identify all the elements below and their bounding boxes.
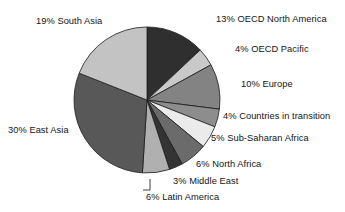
slice-label-countries-in-transition: 4% Countries in transition — [223, 111, 330, 122]
slice-label-middle-east: 3% Middle East — [173, 176, 238, 187]
slice-label-oecd-north-america: 13% OECD North America — [216, 14, 327, 25]
slice-label-south-asia-text: 19% South Asia — [36, 16, 102, 26]
slice-label-middle-east-text: 3% Middle East — [173, 176, 238, 186]
latin-america-leader-line — [143, 179, 150, 190]
slice-label-east-asia: 30% East Asia — [8, 125, 69, 136]
slice-label-east-asia-text: 30% East Asia — [8, 125, 69, 135]
slice-label-north-africa-text: 6% North Africa — [196, 159, 261, 169]
slice-label-latin-america: 6% Latin America — [146, 192, 219, 203]
slice-label-oecd-pacific: 4% OECD Pacific — [235, 44, 309, 55]
slice-label-latin-america-text: 6% Latin America — [146, 192, 219, 202]
slice-label-south-asia: 19% South Asia — [36, 16, 102, 27]
slice-label-north-africa: 6% North Africa — [196, 159, 261, 170]
slice-label-sub-saharan-africa: 5% Sub-Saharan Africa — [211, 133, 309, 144]
slice-label-oecd-north-america-text: 13% OECD North America — [216, 14, 327, 24]
slice-label-countries-in-transition-text: 4% Countries in transition — [223, 111, 330, 121]
pie-slice-group — [74, 27, 220, 173]
slice-label-sub-saharan-africa-text: 5% Sub-Saharan Africa — [211, 133, 309, 143]
slice-label-europe-text: 10% Europe — [241, 79, 293, 89]
slice-label-europe: 10% Europe — [241, 79, 293, 90]
pie-chart: 19% South Asia 30% East Asia 13% OECD No… — [0, 0, 345, 212]
slice-label-oecd-pacific-text: 4% OECD Pacific — [235, 44, 309, 54]
